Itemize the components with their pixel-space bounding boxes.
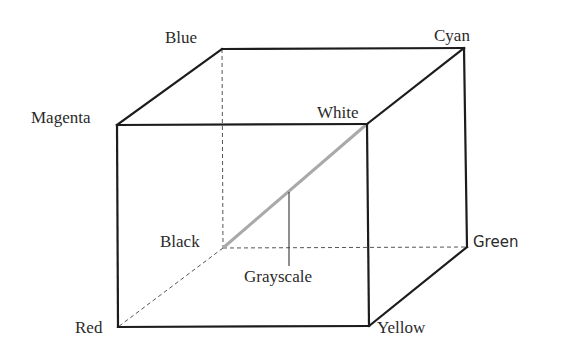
edge-cyan-green: [464, 48, 467, 247]
edge-magenta-white: [117, 124, 367, 125]
hidden-edge-black-green: [223, 247, 467, 248]
edge-blue-cyan: [222, 48, 464, 49]
label-black: Black: [160, 232, 200, 251]
grayscale-diagonal: [223, 124, 367, 248]
hidden-edge-blue-black: [222, 49, 223, 248]
label-magenta: Magenta: [31, 108, 91, 127]
label-green: Green: [473, 233, 518, 251]
label-yellow: Yellow: [377, 318, 426, 337]
label-red: Red: [75, 318, 103, 337]
label-grayscale: Grayscale: [244, 267, 312, 286]
edge-red-yellow: [118, 326, 369, 327]
hidden-edge-black-red: [118, 248, 223, 327]
label-cyan: Cyan: [434, 26, 470, 45]
edge-magenta-blue: [117, 49, 222, 125]
rgb-color-cube-diagram: Blue Cyan Magenta White Black Green Red …: [0, 0, 562, 364]
edge-yellow-green: [369, 247, 467, 326]
label-white: White: [317, 103, 359, 122]
edge-magenta-red: [117, 125, 118, 327]
edge-white-yellow: [367, 124, 369, 326]
label-blue: Blue: [165, 28, 197, 47]
edge-white-cyan: [367, 48, 464, 124]
